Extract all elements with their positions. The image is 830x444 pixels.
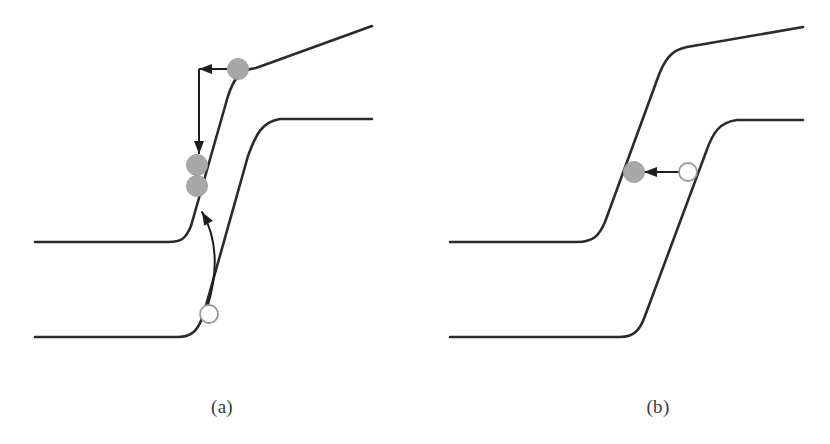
particle-electron-hot [228, 59, 249, 80]
panel-a-caption: (a) [162, 396, 282, 418]
band-curve-valence-band [450, 120, 803, 337]
panel-a-diagram [0, 0, 415, 390]
band-curve-conduction-band [450, 27, 803, 242]
panel-b: (b) [415, 0, 830, 444]
recombination-arrow-head [644, 167, 657, 177]
panel-a: (a) [0, 0, 415, 444]
thermalization-horizontal-arrow-head [199, 64, 212, 74]
band-diagram-figure: (a) (b) [0, 0, 830, 444]
particle-electron [624, 162, 645, 183]
particle-electron-relaxed-upper [187, 155, 208, 176]
hole-transport-curved-arrow-head [202, 212, 213, 226]
particle-hole [200, 305, 218, 323]
particle-hole [679, 163, 697, 181]
hole-transport-curved-arrow-line [202, 212, 215, 305]
particle-electron-relaxed-lower [187, 176, 208, 197]
panel-b-caption: (b) [598, 396, 718, 418]
band-curve-valence-band [35, 119, 372, 337]
band-curve-conduction-band [35, 26, 372, 242]
thermalization-vertical-arrow-head [194, 141, 204, 154]
panel-b-diagram [415, 0, 830, 390]
